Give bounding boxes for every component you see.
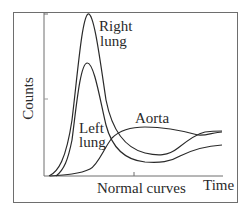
series-right-lung — [49, 14, 222, 176]
chart-caption: Normal curves — [97, 181, 186, 196]
annotation-right-lung-line1: Right — [99, 19, 132, 34]
annotation-left-lung-line2: lung — [79, 135, 106, 150]
x-axis-label: Time — [203, 178, 234, 193]
series-aorta — [50, 127, 222, 176]
annotation-right-lung-line2: lung — [100, 34, 127, 49]
y-axis-label: Counts — [20, 69, 37, 129]
annotation-aorta: Aorta — [135, 111, 169, 126]
